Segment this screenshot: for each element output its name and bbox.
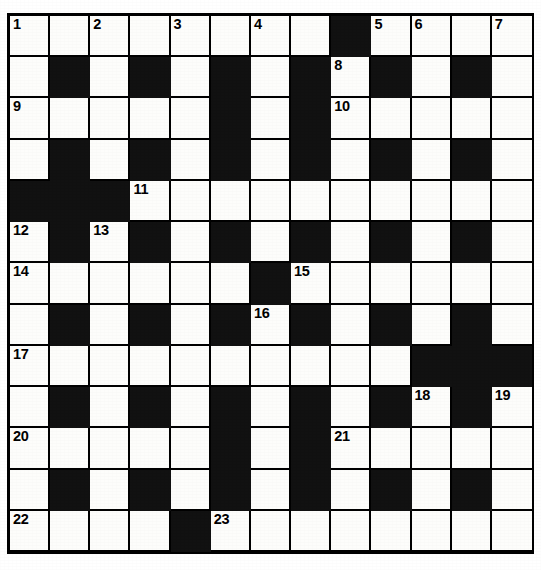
letter-cell[interactable]: [452, 181, 492, 222]
letter-cell[interactable]: [130, 346, 170, 387]
letter-cell[interactable]: [90, 57, 130, 98]
letter-cell[interactable]: [371, 98, 411, 139]
letter-cell[interactable]: [171, 428, 211, 469]
letter-cell[interactable]: [331, 511, 371, 552]
letter-cell[interactable]: [171, 305, 211, 346]
letter-cell[interactable]: [90, 387, 130, 428]
letter-cell[interactable]: [331, 140, 371, 181]
letter-cell[interactable]: [331, 387, 371, 428]
letter-cell[interactable]: [492, 57, 532, 98]
letter-cell[interactable]: [492, 140, 532, 181]
letter-cell[interactable]: [452, 16, 492, 57]
letter-cell[interactable]: [130, 511, 170, 552]
letter-cell[interactable]: [211, 346, 251, 387]
letter-cell[interactable]: [331, 181, 371, 222]
letter-cell[interactable]: 15: [291, 263, 331, 304]
letter-cell[interactable]: [251, 511, 291, 552]
letter-cell[interactable]: [331, 305, 371, 346]
letter-cell[interactable]: [331, 346, 371, 387]
letter-cell[interactable]: 12: [10, 222, 50, 263]
letter-cell[interactable]: [171, 98, 211, 139]
letter-cell[interactable]: [452, 428, 492, 469]
letter-cell[interactable]: [171, 387, 211, 428]
crossword-grid[interactable]: 1234567891011121314151617181920212223: [7, 13, 534, 554]
letter-cell[interactable]: [251, 140, 291, 181]
letter-cell[interactable]: [251, 57, 291, 98]
letter-cell[interactable]: [211, 16, 251, 57]
letter-cell[interactable]: [291, 511, 331, 552]
letter-cell[interactable]: [371, 263, 411, 304]
letter-cell[interactable]: [291, 16, 331, 57]
letter-cell[interactable]: [492, 222, 532, 263]
letter-cell[interactable]: [211, 263, 251, 304]
letter-cell[interactable]: [492, 511, 532, 552]
letter-cell[interactable]: 10: [331, 98, 371, 139]
letter-cell[interactable]: [50, 16, 90, 57]
letter-cell[interactable]: [10, 387, 50, 428]
letter-cell[interactable]: [412, 263, 452, 304]
letter-cell[interactable]: 8: [331, 57, 371, 98]
letter-cell[interactable]: [171, 222, 211, 263]
letter-cell[interactable]: [412, 511, 452, 552]
letter-cell[interactable]: [371, 511, 411, 552]
letter-cell[interactable]: 16: [251, 305, 291, 346]
letter-cell[interactable]: [412, 181, 452, 222]
letter-cell[interactable]: [452, 511, 492, 552]
letter-cell[interactable]: 17: [10, 346, 50, 387]
letter-cell[interactable]: 5: [371, 16, 411, 57]
letter-cell[interactable]: [90, 98, 130, 139]
letter-cell[interactable]: [90, 140, 130, 181]
letter-cell[interactable]: [90, 346, 130, 387]
letter-cell[interactable]: 1: [10, 16, 50, 57]
letter-cell[interactable]: [90, 305, 130, 346]
letter-cell[interactable]: [90, 263, 130, 304]
letter-cell[interactable]: [412, 470, 452, 511]
letter-cell[interactable]: [492, 428, 532, 469]
letter-cell[interactable]: [251, 98, 291, 139]
letter-cell[interactable]: [492, 470, 532, 511]
letter-cell[interactable]: [412, 305, 452, 346]
letter-cell[interactable]: [412, 57, 452, 98]
letter-cell[interactable]: 19: [492, 387, 532, 428]
letter-cell[interactable]: [90, 511, 130, 552]
letter-cell[interactable]: 22: [10, 511, 50, 552]
letter-cell[interactable]: [251, 470, 291, 511]
letter-cell[interactable]: [171, 263, 211, 304]
letter-cell[interactable]: [251, 222, 291, 263]
letter-cell[interactable]: [50, 511, 90, 552]
letter-cell[interactable]: 21: [331, 428, 371, 469]
letter-cell[interactable]: [50, 263, 90, 304]
letter-cell[interactable]: 23: [211, 511, 251, 552]
letter-cell[interactable]: [251, 346, 291, 387]
letter-cell[interactable]: [412, 140, 452, 181]
letter-cell[interactable]: [412, 428, 452, 469]
letter-cell[interactable]: [130, 98, 170, 139]
letter-cell[interactable]: [291, 346, 331, 387]
letter-cell[interactable]: 14: [10, 263, 50, 304]
letter-cell[interactable]: [50, 428, 90, 469]
letter-cell[interactable]: 18: [412, 387, 452, 428]
letter-cell[interactable]: 6: [412, 16, 452, 57]
letter-cell[interactable]: [10, 470, 50, 511]
letter-cell[interactable]: [10, 140, 50, 181]
letter-cell[interactable]: [492, 305, 532, 346]
letter-cell[interactable]: [492, 98, 532, 139]
letter-cell[interactable]: [331, 263, 371, 304]
letter-cell[interactable]: [10, 305, 50, 346]
letter-cell[interactable]: [291, 181, 331, 222]
letter-cell[interactable]: [130, 263, 170, 304]
letter-cell[interactable]: 2: [90, 16, 130, 57]
letter-cell[interactable]: 3: [171, 16, 211, 57]
letter-cell[interactable]: [171, 470, 211, 511]
letter-cell[interactable]: [331, 470, 371, 511]
letter-cell[interactable]: [371, 181, 411, 222]
letter-cell[interactable]: [251, 181, 291, 222]
letter-cell[interactable]: [171, 346, 211, 387]
letter-cell[interactable]: [171, 57, 211, 98]
letter-cell[interactable]: [452, 263, 492, 304]
letter-cell[interactable]: [50, 346, 90, 387]
letter-cell[interactable]: [10, 57, 50, 98]
letter-cell[interactable]: 9: [10, 98, 50, 139]
letter-cell[interactable]: 20: [10, 428, 50, 469]
letter-cell[interactable]: [251, 387, 291, 428]
